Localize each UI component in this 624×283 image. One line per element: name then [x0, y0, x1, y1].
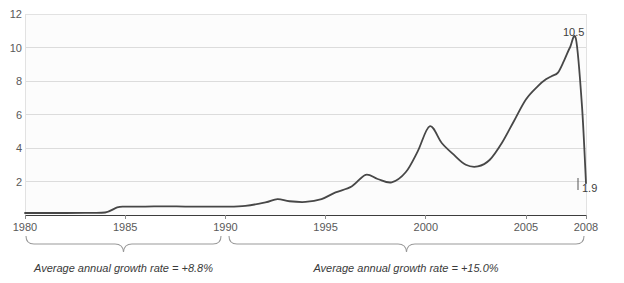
data-label-peak: 10.5	[563, 26, 584, 38]
x-axis-tick-1980: 1980	[5, 221, 45, 233]
data-label-end: 1.9	[582, 182, 597, 194]
x-axis-tick-2000: 2000	[406, 221, 446, 233]
x-axis-tick-1990: 1990	[205, 221, 245, 233]
brace-label-right: Average annual growth rate = +15.0%	[226, 262, 586, 274]
x-axis-tick-2008: 2008	[566, 221, 606, 233]
y-axis-tick-2: 2	[0, 176, 22, 188]
brace-label-left: Average annual growth rate = +8.8%	[25, 262, 222, 274]
y-axis-tick-8: 8	[0, 75, 22, 87]
brace-right	[229, 236, 584, 252]
y-axis-tick-10: 10	[0, 42, 22, 54]
y-axis-tick-12: 12	[0, 8, 22, 20]
chart-svg	[0, 0, 624, 283]
x-axis-tick-1995: 1995	[306, 221, 346, 233]
y-axis-tick-4: 4	[0, 142, 22, 154]
x-axis-tick-2005: 2005	[506, 221, 546, 233]
x-axis-tick-1985: 1985	[105, 221, 145, 233]
chart-container: 12 10 8 6 4 2 1980 1985 1990 1995 2000 2…	[0, 0, 624, 283]
brace-left	[26, 236, 221, 252]
y-axis-tick-6: 6	[0, 109, 22, 121]
